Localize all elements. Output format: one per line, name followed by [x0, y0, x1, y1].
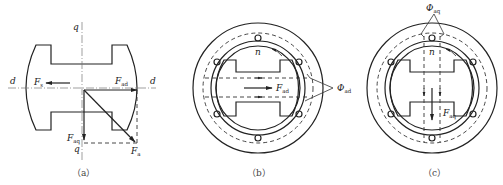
panel-a: d d q q Fs Fad Faq Fa （a） — [8, 22, 156, 178]
fa-label: Fa — [130, 146, 141, 157]
q-axis-label-top: q — [73, 22, 79, 32]
d-axis-label-left: d — [10, 76, 16, 86]
d-axis-label-right: d — [150, 76, 156, 86]
salient-pole-armature-reaction-diagram: d d q q Fs Fad Faq Fa （a） — [0, 0, 503, 185]
flux-leader-line — [305, 88, 333, 101]
fs-label: Fs — [33, 77, 43, 88]
q-axis-label-bottom: q — [74, 144, 80, 154]
flux-ad-label: Φad — [337, 83, 352, 94]
panel-c: Faq n Φaq （c） — [367, 3, 497, 178]
rotor-pole-shape — [390, 60, 473, 116]
flux-aq-label: Φaq — [426, 3, 441, 15]
rotation-label: n — [255, 47, 261, 57]
faq-label: Faq — [66, 133, 81, 145]
slot-conductor — [429, 135, 435, 141]
fad-label: Fad — [114, 76, 129, 87]
flux-leader-line — [307, 74, 333, 88]
slot-conductor — [255, 135, 261, 141]
panel-b: Fad n Φad （b） — [193, 23, 352, 178]
fa-vector-arrow — [84, 90, 135, 142]
slot-conductor — [429, 35, 435, 41]
fad-label: Fad — [275, 83, 290, 94]
rotation-label: n — [429, 47, 435, 57]
caption-a: （a） — [72, 168, 95, 178]
caption-b: （b） — [247, 168, 271, 178]
caption-c: （c） — [423, 168, 446, 178]
slot-conductor — [255, 35, 261, 41]
